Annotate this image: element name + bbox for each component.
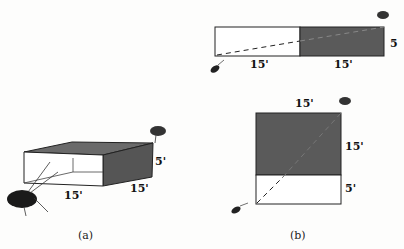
figure-canvas: 15' 15' 5' (a) 15' 15' 5 15' 15' 5' (b) <box>0 0 404 249</box>
label-left-width: 15' <box>250 58 269 71</box>
fly-icon <box>339 97 351 105</box>
label-top-height: 15' <box>345 140 364 153</box>
box-3d <box>24 142 153 186</box>
label-right-width: 15' <box>334 58 353 71</box>
net-horizontal <box>215 27 384 56</box>
caption-a: (a) <box>78 229 93 242</box>
label-height: 5' <box>155 155 166 168</box>
label-depth: 15' <box>130 182 149 195</box>
ant-icon <box>230 203 248 215</box>
label-width: 15' <box>64 189 83 202</box>
fly-icon <box>150 126 166 143</box>
net-vertical <box>256 113 341 204</box>
label-net-height: 5 <box>390 37 398 50</box>
fly-icon <box>377 11 389 19</box>
diagram-svg <box>0 0 404 249</box>
caption-b: (b) <box>290 229 306 242</box>
label-top-width: 15' <box>295 97 314 110</box>
ant-icon <box>209 60 224 74</box>
label-bottom-height: 5' <box>345 182 356 195</box>
